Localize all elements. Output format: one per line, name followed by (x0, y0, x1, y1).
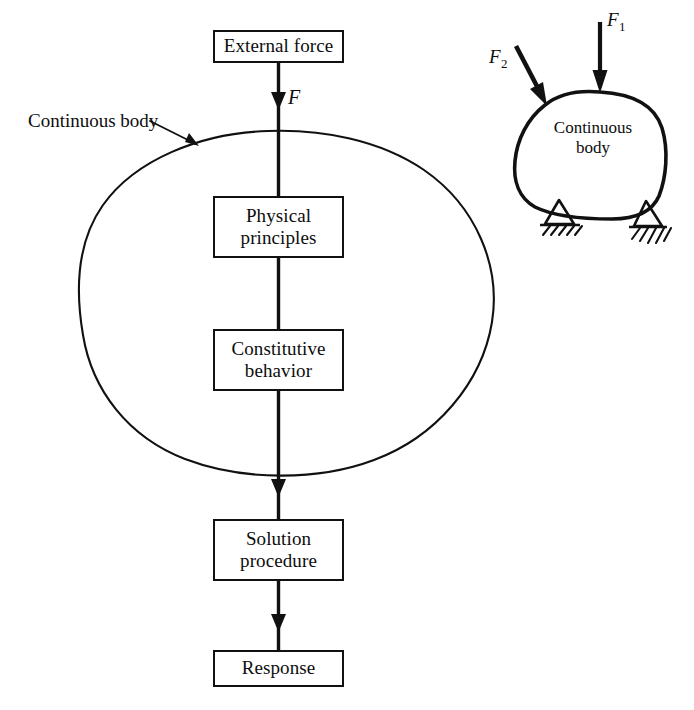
node-solution-procedure[interactable]: Solution procedure (213, 519, 344, 581)
inset-force-F2-arrowhead (530, 82, 547, 106)
inset-force-F2-symbol: F (489, 46, 501, 67)
inset-force-F2-label: F2 (489, 46, 508, 72)
inset-support-left-hatching (543, 226, 582, 235)
arrowhead-constitutive-to-solution (271, 479, 286, 497)
node-solution-procedure-line1: Solution (246, 528, 311, 549)
inset-force-F2-subscript: 2 (501, 56, 508, 71)
inset-force-F1-label: F1 (607, 9, 626, 35)
node-constitutive-behavior[interactable]: Constitutive behavior (213, 329, 344, 391)
node-physical-principles-line1: Physical (246, 205, 311, 226)
node-external-force-label: External force (220, 35, 338, 57)
inset-force-F1-subscript: 1 (619, 19, 626, 34)
node-physical-principles[interactable]: Physical principles (213, 196, 344, 258)
node-solution-procedure-line2: procedure (240, 550, 317, 571)
arrowhead-force-F (271, 92, 286, 110)
inset-support-right-hatching (632, 228, 671, 243)
node-constitutive-behavior-line2: behavior (245, 360, 312, 381)
figure-canvas: External force Physical principles Const… (0, 0, 694, 710)
node-constitutive-behavior-label: Constitutive behavior (227, 338, 329, 382)
diagram-artwork (0, 0, 694, 710)
inset-force-F1-symbol: F (607, 9, 619, 30)
continuous-body-outline (79, 131, 494, 476)
inset-continuous-body-label: Continuous body (547, 118, 639, 158)
node-response[interactable]: Response (213, 650, 344, 687)
continuous-body-label: Continuous body (28, 110, 158, 132)
node-solution-procedure-label: Solution procedure (236, 528, 321, 572)
inset-force-F2-shaft (516, 46, 540, 92)
node-physical-principles-label: Physical principles (237, 205, 321, 249)
inset-continuous-body-line1: Continuous (554, 118, 632, 137)
node-constitutive-behavior-line1: Constitutive (231, 338, 325, 359)
inset-force-F1-arrowhead (593, 70, 608, 93)
node-physical-principles-line2: principles (241, 227, 317, 248)
node-response-label: Response (238, 657, 320, 679)
node-external-force[interactable]: External force (213, 30, 344, 63)
force-F-label: F (288, 86, 300, 109)
arrowhead-solution-to-response (271, 614, 286, 632)
inset-continuous-body-line2: body (576, 138, 610, 157)
